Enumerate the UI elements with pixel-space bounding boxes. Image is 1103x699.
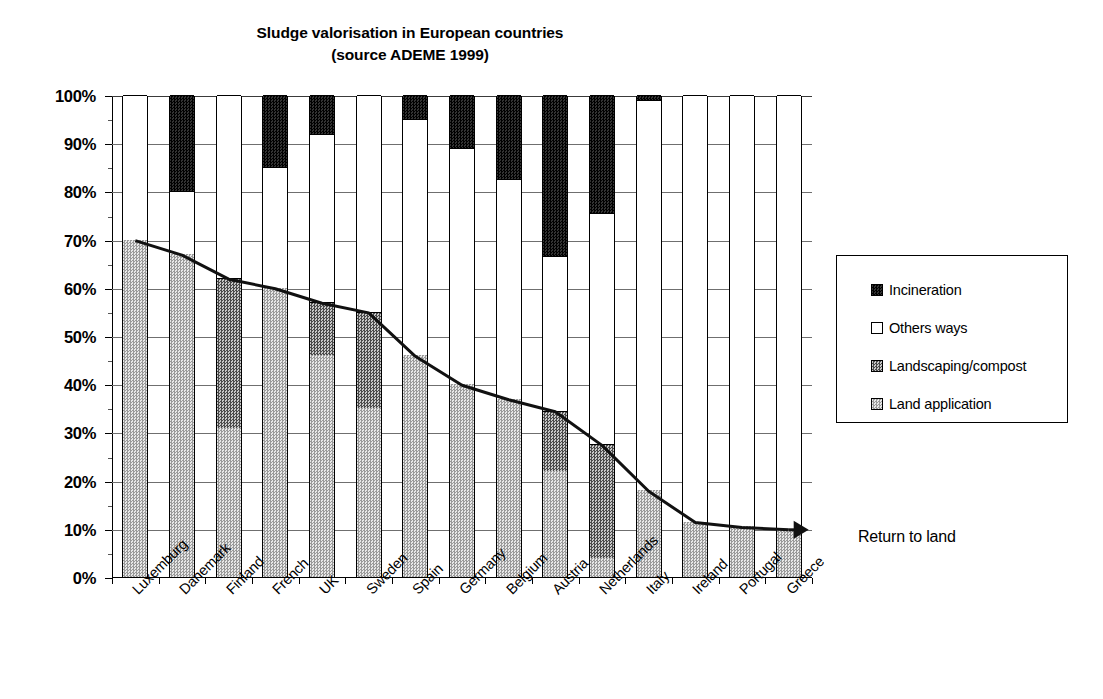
bar-segment[interactable] (263, 288, 287, 577)
x-tick-mark (299, 578, 300, 584)
bar-column[interactable] (205, 96, 252, 578)
bar-segment[interactable] (123, 240, 147, 577)
bar-segment[interactable] (450, 95, 474, 148)
legend-label: Landscaping/compost (889, 358, 1026, 374)
x-tick-mark (439, 578, 440, 584)
stacked-bar[interactable] (682, 96, 708, 578)
bar-column[interactable] (392, 96, 439, 578)
stacked-bar[interactable] (216, 96, 242, 578)
bar-segment[interactable] (123, 95, 147, 240)
bar-segment[interactable] (590, 444, 614, 557)
y-tick-label-20: 20% (32, 472, 96, 491)
legend-item[interactable]: Land application (871, 396, 991, 412)
stacked-bar[interactable] (122, 96, 148, 578)
bar-segment[interactable] (777, 529, 801, 577)
y-tick-mark-90 (105, 144, 112, 145)
y-tick-label-60: 60% (32, 279, 96, 298)
bar-segment[interactable] (590, 95, 614, 213)
stacked-bar[interactable] (402, 96, 428, 578)
bar-segment[interactable] (170, 95, 194, 191)
bar-column[interactable] (439, 96, 486, 578)
y-tick-label-80: 80% (32, 183, 96, 202)
bar-segment[interactable] (543, 95, 567, 256)
stacked-bar[interactable] (169, 96, 195, 578)
chart-title: Sludge valorisation in European countrie… (0, 22, 820, 66)
plot-area: 0%10%20%30%40%50%60%70%80%90%100% (112, 96, 812, 578)
bar-segment[interactable] (543, 256, 567, 410)
x-tick-mark (345, 578, 346, 584)
bar-segment[interactable] (217, 95, 241, 278)
y-tick-mark-20 (105, 482, 112, 483)
legend-swatch-icon (871, 284, 883, 296)
bar-segment[interactable] (497, 179, 521, 398)
stacked-bar[interactable] (356, 96, 382, 578)
stacked-bar[interactable] (542, 96, 568, 578)
return-to-land-annotation: Return to land (858, 528, 956, 546)
bar-column[interactable] (532, 96, 579, 578)
bar-column[interactable] (625, 96, 672, 578)
bar-segment[interactable] (263, 95, 287, 167)
bar-column[interactable] (252, 96, 299, 578)
bar-segment[interactable] (777, 95, 801, 529)
bar-segment[interactable] (403, 119, 427, 355)
y-tick-label-10: 10% (32, 520, 96, 539)
bar-column[interactable] (112, 96, 159, 578)
bar-segment[interactable] (683, 522, 707, 577)
bar-column[interactable] (485, 96, 532, 578)
y-tick-mark-0 (105, 578, 112, 579)
bar-segment[interactable] (170, 191, 194, 254)
bar-segment[interactable] (357, 408, 381, 577)
bar-segment[interactable] (543, 411, 567, 471)
bar-segment[interactable] (637, 100, 661, 490)
bar-segment[interactable] (310, 302, 334, 355)
bar-column[interactable] (299, 96, 346, 578)
bar-segment[interactable] (730, 95, 754, 526)
chart-container: Sludge valorisation in European countrie… (0, 0, 1103, 699)
stacked-bar[interactable] (776, 96, 802, 578)
bar-segment[interactable] (403, 95, 427, 119)
stacked-bar[interactable] (449, 96, 475, 578)
legend-item[interactable]: Landscaping/compost (871, 358, 1026, 374)
stacked-bar[interactable] (729, 96, 755, 578)
bar-segment[interactable] (357, 312, 381, 408)
x-tick-mark (112, 578, 113, 584)
x-tick-mark (579, 578, 580, 584)
bar-column[interactable] (579, 96, 626, 578)
bar-segment[interactable] (403, 355, 427, 577)
stacked-bar[interactable] (262, 96, 288, 578)
bar-segment[interactable] (730, 526, 754, 577)
bar-column[interactable] (672, 96, 719, 578)
bar-segment[interactable] (497, 95, 521, 179)
bar-segment[interactable] (217, 278, 241, 427)
bar-segment[interactable] (590, 213, 614, 444)
bar-column[interactable] (765, 96, 812, 578)
bar-column[interactable] (159, 96, 206, 578)
bar-segment[interactable] (263, 167, 287, 288)
bar-column[interactable] (719, 96, 766, 578)
stacked-bar[interactable] (309, 96, 335, 578)
y-tick-mark-30 (105, 433, 112, 434)
bar-segment[interactable] (310, 134, 334, 303)
bar-segment[interactable] (450, 384, 474, 577)
bar-segment[interactable] (450, 148, 474, 384)
legend-item[interactable]: Incineration (871, 282, 962, 298)
legend: IncinerationOthers waysLandscaping/compo… (836, 255, 1068, 423)
bar-column[interactable] (345, 96, 392, 578)
legend-swatch-icon (871, 398, 883, 410)
y-tick-label-0: 0% (32, 569, 96, 588)
y-tick-mark-60 (105, 289, 112, 290)
bar-segment[interactable] (357, 95, 381, 312)
chart-subtitle: (source ADEME 1999) (0, 44, 820, 66)
stacked-bar[interactable] (589, 96, 615, 578)
bar-segment[interactable] (310, 355, 334, 577)
legend-label: Land application (889, 396, 991, 412)
bar-segment[interactable] (683, 95, 707, 522)
stacked-bar[interactable] (496, 96, 522, 578)
y-tick-mark-100 (105, 96, 112, 97)
bar-segment[interactable] (170, 254, 194, 577)
y-tick-label-90: 90% (32, 135, 96, 154)
bar-segment[interactable] (637, 95, 661, 100)
stacked-bar[interactable] (636, 96, 662, 578)
bar-segment[interactable] (310, 95, 334, 134)
legend-item[interactable]: Others ways (871, 320, 967, 336)
